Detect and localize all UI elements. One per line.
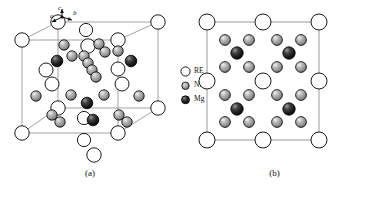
atom-re — [15, 33, 29, 47]
atom-re — [87, 148, 101, 162]
crystal-structure-figure: a c b (a) RE Ni — [0, 0, 369, 198]
atom-re — [45, 77, 59, 91]
atom-re — [15, 126, 29, 140]
atom-ni — [244, 90, 255, 101]
atom-ni — [272, 62, 283, 73]
atom-ni — [296, 117, 307, 128]
atom-re — [311, 132, 327, 148]
atom-ni — [100, 47, 110, 57]
panel-a-caption: (a) — [0, 168, 180, 178]
atom-re — [39, 63, 53, 77]
atom-mg — [283, 103, 295, 115]
atom-re — [151, 101, 165, 115]
atom-re — [199, 14, 215, 30]
atom-ni — [296, 62, 307, 73]
axis-label-b: b — [73, 10, 77, 17]
atom-ni — [272, 35, 283, 46]
atom-mg — [231, 47, 243, 59]
atom-ni — [66, 90, 76, 100]
atom-ni — [99, 90, 109, 100]
atom-mg — [125, 55, 137, 67]
atom-ni — [134, 91, 144, 101]
panel-b-caption: (b) — [180, 168, 369, 178]
atom-ni — [122, 117, 132, 127]
atom-mg — [81, 97, 93, 109]
panel-a-canvas — [0, 0, 180, 168]
atom-ni — [244, 35, 255, 46]
atom-re — [77, 133, 90, 146]
panel-b-canvas — [180, 0, 369, 168]
atom-re — [111, 62, 125, 76]
atom-mg — [283, 47, 295, 59]
atom-ni — [220, 35, 231, 46]
atom-ni — [113, 46, 123, 56]
atom-mg — [231, 103, 243, 115]
atom-ni — [59, 40, 69, 50]
atom-ni — [91, 72, 101, 82]
atom-ni — [67, 51, 77, 61]
atom-group-panel-b — [199, 14, 327, 148]
atom-ni — [220, 117, 231, 128]
axis-origin-dot — [60, 15, 63, 18]
atom-re — [311, 73, 327, 89]
atom-re — [199, 132, 215, 148]
atom-ni — [55, 117, 65, 127]
atom-ni — [296, 35, 307, 46]
panel-b-projection: (b) — [180, 0, 369, 198]
atom-re — [151, 15, 165, 29]
atom-ni — [244, 62, 255, 73]
atom-re — [199, 73, 215, 89]
axis-label-c: c — [58, 5, 61, 12]
atom-ni — [244, 117, 255, 128]
atom-ni — [220, 90, 231, 101]
atom-re — [115, 77, 129, 91]
atom-ni — [272, 90, 283, 101]
atom-re — [255, 14, 271, 30]
atom-mg — [51, 55, 63, 67]
axis-label-a: a — [50, 13, 54, 20]
atom-ni — [220, 62, 231, 73]
atom-group-panel-a — [15, 15, 165, 162]
atom-mg — [87, 114, 99, 126]
atom-re — [255, 73, 271, 89]
atom-ni — [296, 90, 307, 101]
atom-ni — [31, 91, 41, 101]
atom-re — [255, 132, 271, 148]
atom-re — [311, 14, 327, 30]
atom-re — [111, 126, 125, 140]
atom-re — [111, 33, 125, 47]
atom-ni — [272, 117, 283, 128]
panel-a-unit-cell-3d: a c b (a) — [0, 0, 180, 198]
atom-re — [79, 23, 92, 36]
